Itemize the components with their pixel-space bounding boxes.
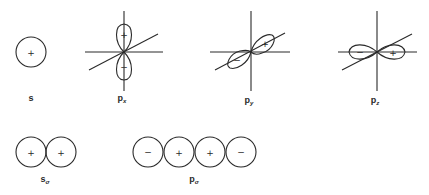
pz-orbital-label: pz: [371, 95, 380, 106]
plus-sign: +: [206, 148, 214, 158]
minus-sign: −: [237, 147, 245, 157]
plus-sign: +: [389, 48, 397, 58]
plus-sign: +: [57, 148, 65, 158]
minus-sign: −: [356, 47, 364, 57]
s-sigma-overlap: + + sσ: [16, 137, 76, 185]
minus-sign: −: [144, 147, 152, 157]
s-orbital-label: s: [28, 93, 33, 103]
plus-sign: +: [27, 48, 35, 58]
p-sigma-label: pσ: [189, 174, 200, 185]
plus-sign: +: [261, 39, 269, 49]
minus-sign: −: [233, 55, 241, 65]
py-orbital: + − py: [210, 11, 290, 106]
s-sigma-label: sσ: [41, 174, 51, 185]
px-orbital-label: px: [118, 93, 128, 104]
py-orbital-label: py: [245, 95, 255, 106]
s-orbital: + s: [16, 37, 46, 103]
plus-sign: +: [175, 148, 183, 158]
plus-sign: +: [120, 30, 128, 40]
orbital-diagram: + s + − px + − py − + pz +: [0, 0, 429, 195]
p-sigma-overlap: − + + − pσ: [133, 137, 256, 185]
pz-orbital: − + pz: [338, 11, 417, 106]
minus-sign: −: [120, 62, 128, 72]
px-orbital: + − px: [85, 11, 163, 104]
plus-sign: +: [27, 148, 35, 158]
